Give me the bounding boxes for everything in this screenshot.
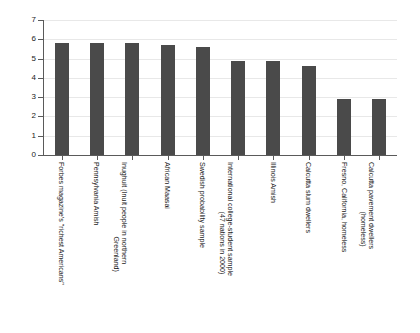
y-tick-mark (38, 78, 43, 79)
bars-layer (44, 20, 397, 155)
x-tick-label: African Maasai (157, 162, 171, 312)
bar (337, 99, 351, 155)
y-tick-mark (38, 155, 43, 156)
bar (161, 45, 175, 155)
y-tick-label: 3 (16, 93, 36, 101)
y-tick-label: 7 (16, 16, 36, 24)
x-tick-label: International college-student sample(47 … (220, 162, 234, 312)
x-tick-label: Pennsylvania Amish (86, 162, 100, 312)
x-tick-label: Fresno, California, homeless (334, 162, 348, 312)
y-tick-mark (38, 116, 43, 117)
y-tick-mark (38, 136, 43, 137)
y-tick-mark (38, 20, 43, 21)
bar (266, 61, 280, 156)
y-tick-mark (38, 59, 43, 60)
x-tick-mark (132, 156, 133, 160)
x-tick-mark (344, 156, 345, 160)
y-tick-label: 4 (16, 74, 36, 82)
x-tick-label: Illinois Amish (263, 162, 277, 312)
x-tick-mark (62, 156, 63, 160)
bar (231, 61, 245, 156)
x-tick-label: Inughuit (Inuit people in northernGreenl… (114, 162, 128, 312)
bar (90, 43, 104, 155)
bar (125, 43, 139, 155)
bar (372, 99, 386, 155)
y-tick-mark (38, 97, 43, 98)
x-tick-mark (168, 156, 169, 160)
x-tick-mark (97, 156, 98, 160)
x-tick-label: Calcutta slum dwellers (298, 162, 312, 312)
bar (196, 47, 210, 155)
y-tick-label: 0 (16, 151, 36, 159)
x-tick-label: Calcutta pavement dwellers(homeless) (361, 162, 375, 312)
bar-chart: 01234567 Forbes magazine's "richest Amer… (0, 0, 420, 333)
x-tick-label: Swedish probability sample (192, 162, 206, 312)
x-tick-mark (379, 156, 380, 160)
bar (55, 43, 69, 155)
y-tick-label: 5 (16, 55, 36, 63)
x-tick-mark (309, 156, 310, 160)
x-tick-label: Forbes magazine's "richest Americans" (51, 162, 65, 312)
bar (302, 66, 316, 155)
y-tick-label: 2 (16, 112, 36, 120)
x-tick-mark (238, 156, 239, 160)
x-tick-mark (273, 156, 274, 160)
y-tick-mark (38, 39, 43, 40)
y-tick-label: 6 (16, 35, 36, 43)
y-tick-label: 1 (16, 132, 36, 140)
x-tick-mark (203, 156, 204, 160)
